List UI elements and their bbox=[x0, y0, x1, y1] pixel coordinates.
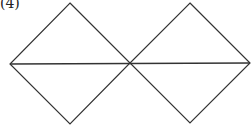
diamond-diagram bbox=[0, 0, 252, 129]
horizontal-diagonal bbox=[10, 63, 250, 64]
diagonal-lines bbox=[10, 63, 250, 64]
